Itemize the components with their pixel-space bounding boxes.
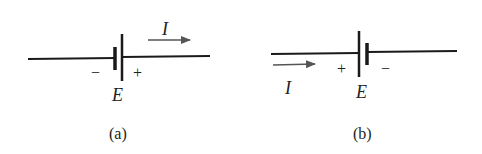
plus-sign: + (337, 60, 346, 77)
current-label: I (161, 19, 169, 39)
wire-left (271, 53, 359, 54)
minus-sign: − (381, 60, 390, 77)
caption-b: (b) (353, 125, 372, 143)
caption-a: (a) (109, 125, 127, 143)
minus-sign: − (91, 64, 100, 81)
current-arrow (273, 64, 315, 65)
plus-sign: + (133, 64, 142, 81)
panel-b: I + − E (b) (271, 31, 457, 143)
emf-label: E (111, 85, 123, 105)
current-label: I (284, 78, 292, 98)
wire-left (28, 58, 116, 59)
panel-a: I − + E (a) (28, 19, 210, 143)
emf-label: E (355, 82, 367, 102)
battery-diagram: I − + E (a) I + − E (b) (0, 0, 482, 154)
wire-right (367, 51, 457, 52)
wire-right (122, 56, 210, 57)
